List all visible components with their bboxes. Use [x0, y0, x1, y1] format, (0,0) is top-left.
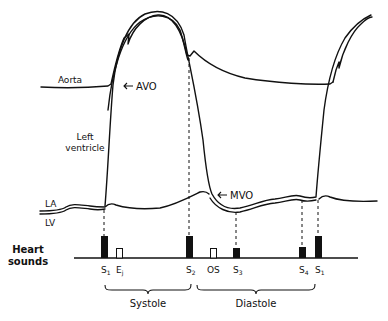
avo-label: AVO [136, 81, 157, 92]
left-atrial-diastolic-curve [210, 198, 316, 212]
left-ventricle-inner-curve [108, 16, 188, 110]
s1-bar [101, 236, 108, 258]
mvo-arrow-icon [218, 192, 227, 198]
left-ventricle-pressure-curve [105, 12, 371, 209]
opening-snap-bar [211, 249, 217, 259]
left-atrial-pressure-curve [40, 192, 209, 211]
left-ventricle-label-line1: Left [77, 132, 94, 142]
s4-sound-label: S4 [299, 265, 309, 276]
left-atrial-pressure-curve-late [319, 196, 377, 201]
systole-brace [105, 284, 191, 294]
mvo-label: MVO [230, 190, 253, 201]
cardiac-cycle-diagram: Aorta AVO Left ventricle MVO LA LV Heart… [0, 0, 388, 321]
s2-bar [186, 236, 193, 258]
diastole-brace [197, 284, 315, 294]
systole-label: Systole [130, 298, 166, 309]
lv-label: LV [45, 218, 56, 228]
s1-second-bar [315, 236, 322, 258]
s3-bar [233, 248, 240, 258]
heart-sounds-label-line2: sounds [8, 256, 48, 267]
s1-sound-label: S1 [101, 265, 111, 276]
la-label: LA [45, 199, 57, 209]
ejection-click-bar [117, 249, 123, 259]
ej-sound-label: Ej [116, 265, 124, 277]
diastole-label: Diastole [236, 298, 277, 309]
s1-second-sound-label: S1 [315, 265, 325, 276]
left-ventricle-label-line2: ventricle [65, 143, 105, 153]
heart-sounds-label-line1: Heart [12, 244, 44, 255]
s2-sound-label: S2 [186, 265, 196, 276]
avo-arrow-icon [124, 83, 133, 89]
os-sound-label: OS [207, 265, 220, 275]
aorta-label: Aorta [58, 75, 82, 85]
s4-bar [299, 247, 306, 258]
s3-sound-label: S3 [233, 265, 243, 276]
